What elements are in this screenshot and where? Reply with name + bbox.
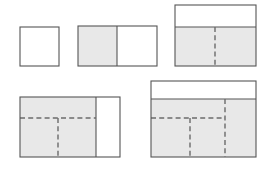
figure-2-halved-rectangle [78, 26, 157, 66]
figure-5-banded-rectangle-with-double-dash [151, 81, 256, 157]
figure-1-interior [20, 27, 59, 66]
figure-5-shaded-region-1 [151, 99, 256, 157]
rectangle-partition-diagram [0, 0, 265, 169]
figure-2-shaded-region-1 [78, 26, 117, 66]
figure-3-banded-rectangle-with-center-dash [175, 5, 256, 66]
figure-4-left-shaded-rectangle-with-tee-dash [20, 97, 120, 157]
figure-1-empty-square [20, 27, 59, 66]
